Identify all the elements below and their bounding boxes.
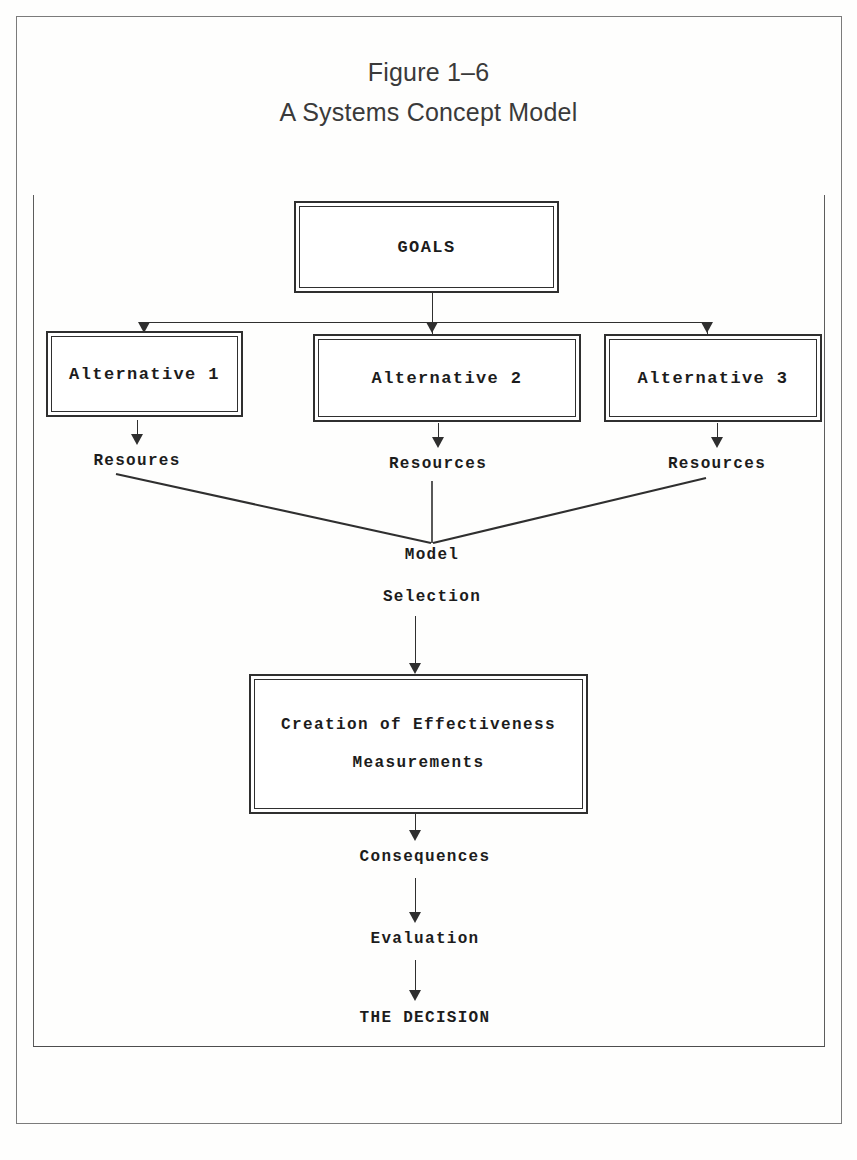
arrowhead-alt3: [701, 322, 713, 333]
diagram-frame-right-rule: [824, 195, 825, 1047]
arrowhead-decision: [409, 990, 421, 1001]
diagram-frame-bottom-rule: [33, 1046, 825, 1047]
selection-label: Selection: [352, 588, 512, 606]
scanned-page: Figure 1–6 A Systems Concept Model GOALS…: [0, 0, 857, 1160]
effectiveness-box-line-1: Creation of Effectiveness: [281, 716, 556, 734]
arrowhead-resources-1: [131, 434, 143, 445]
arrowhead-effectiveness: [409, 663, 421, 674]
effectiveness-box-inner: Creation of Effectiveness Measurements: [254, 679, 583, 809]
alternative-3-box[interactable]: Alternative 3: [604, 334, 822, 422]
alternative-2-box-inner: Alternative 2: [318, 339, 576, 417]
diagram-frame-left-rule: [33, 195, 34, 1047]
effectiveness-box-line-2: Measurements: [352, 754, 484, 772]
figure-title: A Systems Concept Model: [0, 92, 857, 132]
alternative-1-box[interactable]: Alternative 1: [46, 331, 243, 417]
goals-stem-line: [432, 293, 433, 323]
consequences-label: Consequences: [335, 848, 515, 866]
resources-label-2: Resources: [358, 455, 518, 473]
figure-number: Figure 1–6: [0, 52, 857, 92]
resources-label-3: Resources: [637, 455, 797, 473]
arrowhead-consequences: [409, 830, 421, 841]
model-label: Model: [352, 546, 512, 564]
arrowhead-resources-2: [432, 437, 444, 448]
figure-caption: Figure 1–6 A Systems Concept Model: [0, 52, 857, 132]
alternative-1-box-inner: Alternative 1: [51, 336, 238, 412]
arrowhead-evaluation: [409, 912, 421, 923]
arrowhead-resources-3: [711, 437, 723, 448]
goals-box-inner: GOALS: [299, 206, 554, 288]
alternative-3-label: Alternative 3: [638, 369, 789, 388]
page-border: [16, 16, 842, 1124]
decision-label: THE DECISION: [325, 1009, 525, 1027]
goals-box[interactable]: GOALS: [294, 201, 559, 293]
evaluation-label: Evaluation: [335, 930, 515, 948]
resources-label-1: Resoures: [57, 452, 217, 470]
alternative-2-box[interactable]: Alternative 2: [313, 334, 581, 422]
goals-box-label: GOALS: [397, 238, 455, 257]
alternative-1-label: Alternative 1: [69, 365, 220, 384]
alternative-3-box-inner: Alternative 3: [609, 339, 817, 417]
effectiveness-box[interactable]: Creation of Effectiveness Measurements: [249, 674, 588, 814]
alternative-2-label: Alternative 2: [372, 369, 523, 388]
arrowhead-alt2: [426, 322, 438, 333]
